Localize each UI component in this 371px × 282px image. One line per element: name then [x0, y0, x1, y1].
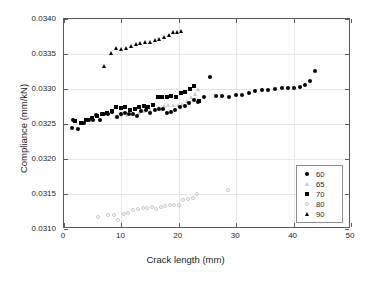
data-point-65: [142, 109, 146, 113]
data-point-60: [76, 127, 80, 131]
legend-marker-triangle-open-icon: [300, 182, 314, 186]
data-point-60: [157, 107, 161, 111]
y-tick-label: 0.0325: [32, 119, 56, 128]
x-tick: [121, 223, 122, 227]
y-tick-label: 0.0335: [32, 49, 56, 58]
data-point-70: [133, 107, 137, 111]
y-tick: [345, 89, 349, 90]
data-point-80: [145, 206, 149, 210]
data-point-65: [180, 102, 184, 106]
data-point-90: [143, 40, 147, 44]
legend-label: 70: [316, 190, 324, 199]
y-tick: [345, 229, 349, 230]
data-point-60: [227, 95, 231, 99]
y-axis-title: Compliance (mm/kN): [18, 54, 29, 204]
data-point-70: [174, 95, 178, 99]
legend-label: 65: [316, 180, 324, 189]
data-point-80: [116, 218, 120, 222]
y-gridline: [64, 54, 349, 55]
legend-marker-square-filled-icon: [300, 192, 314, 196]
data-point-90: [102, 64, 106, 68]
y-tick-label: 0.0320: [32, 154, 56, 163]
x-tick: [294, 19, 295, 23]
y-tick: [64, 194, 68, 195]
data-point-70: [151, 103, 155, 107]
data-point-60: [102, 112, 106, 116]
data-point-60: [110, 110, 114, 114]
y-tick: [345, 19, 349, 20]
data-point-80: [106, 213, 110, 217]
y-tick: [345, 54, 349, 55]
data-point-65: [114, 114, 118, 118]
legend-marker-circle-open-icon: [300, 202, 314, 206]
data-point-70: [73, 119, 77, 123]
data-point-60: [308, 79, 312, 83]
data-point-80: [154, 207, 158, 211]
data-point-70: [123, 105, 127, 109]
x-tick: [294, 223, 295, 227]
data-point-60: [139, 109, 143, 113]
legend-item-80: 80: [300, 199, 340, 209]
data-point-60: [202, 95, 206, 99]
data-point-60: [208, 75, 212, 79]
data-point-90: [153, 38, 157, 42]
x-tick-label: 40: [288, 231, 297, 240]
x-tick-label: 10: [116, 231, 125, 240]
data-point-90: [138, 41, 142, 45]
data-point-70: [90, 116, 94, 120]
chart-legend: 6065708090: [296, 165, 343, 223]
data-point-60: [303, 83, 307, 87]
data-point-65: [131, 112, 135, 116]
data-point-60: [71, 118, 75, 122]
y-tick: [64, 89, 68, 90]
data-point-60: [127, 112, 131, 116]
x-gridline: [294, 19, 295, 227]
data-point-60: [214, 94, 218, 98]
data-point-70: [146, 105, 150, 109]
data-point-70: [192, 84, 196, 88]
data-point-65: [193, 92, 197, 96]
data-point-80: [126, 211, 130, 215]
data-point-70: [105, 111, 109, 115]
chart-figure: Crack length (mm) Compliance (mm/kN) 606…: [0, 0, 371, 282]
legend-item-65: 65: [300, 179, 340, 189]
data-point-80: [163, 204, 167, 208]
data-point-70: [142, 104, 146, 108]
legend-marker-triangle-filled-icon: [300, 212, 314, 216]
data-point-60: [165, 111, 169, 115]
legend-item-70: 70: [300, 189, 340, 199]
y-tick: [345, 194, 349, 195]
x-tick: [236, 223, 237, 227]
data-point-60: [144, 108, 148, 112]
data-point-80: [186, 197, 190, 201]
data-point-60: [220, 94, 224, 98]
data-point-60: [196, 100, 200, 104]
data-point-60: [313, 69, 317, 73]
data-point-90: [134, 42, 138, 46]
data-point-60: [169, 110, 173, 114]
x-tick: [64, 223, 65, 227]
data-point-60: [70, 126, 74, 130]
x-gridline: [121, 19, 122, 227]
data-point-70: [137, 105, 141, 109]
data-point-65: [157, 106, 161, 110]
x-tick-label: 50: [346, 231, 355, 240]
data-point-70: [95, 114, 99, 118]
data-point-90: [124, 46, 128, 50]
data-point-60: [187, 101, 191, 105]
data-point-90: [148, 40, 152, 44]
data-point-65: [148, 108, 152, 112]
data-point-60: [183, 104, 187, 108]
data-point-65: [189, 95, 193, 99]
data-point-70: [169, 94, 173, 98]
y-tick-label: 0.0315: [32, 189, 56, 198]
data-point-60: [247, 91, 251, 95]
data-point-60: [91, 118, 95, 122]
y-tick: [64, 124, 68, 125]
y-tick: [64, 19, 68, 20]
data-point-70: [84, 118, 88, 122]
x-tick-label: 0: [61, 231, 65, 240]
legend-marker-circle-filled-icon: [300, 172, 314, 176]
y-tick: [345, 159, 349, 160]
x-gridline: [236, 19, 237, 227]
